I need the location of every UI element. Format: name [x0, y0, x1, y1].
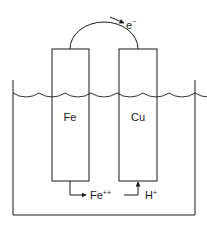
h-ion-label: H+ — [145, 189, 157, 201]
electron-flow-arrow-icon — [110, 17, 124, 23]
cu-electrode-label: Cu — [131, 111, 145, 123]
fe-electrode-label: Fe — [64, 111, 77, 123]
electron-label: e− — [126, 18, 136, 31]
h-ion-arrow-icon — [124, 182, 138, 195]
electrolyte-surface — [13, 93, 207, 97]
fe-ion-arrow-icon — [70, 181, 86, 195]
fe-ion-label: Fe++ — [90, 189, 111, 201]
galvanic-cell-diagram: e− Fe Cu Fe++ H+ — [0, 0, 207, 226]
